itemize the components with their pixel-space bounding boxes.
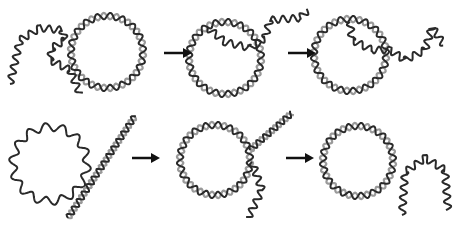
ssdna-strand (347, 22, 443, 61)
top-row (8, 9, 443, 97)
process-arrow-icon (286, 153, 314, 163)
bottom-row (9, 111, 451, 218)
stage-invasion-progress (311, 16, 443, 94)
ssdna-strand (207, 9, 308, 50)
ssdna-strand (246, 162, 264, 217)
ssdna-strand (399, 155, 451, 215)
ssdna-circle (9, 123, 91, 205)
dsdna-linear-strand-a (67, 116, 136, 218)
stage-circular-dsDNA-product (320, 123, 451, 215)
process-arrow-icon (132, 153, 160, 163)
stage-ssDNA-circle-and-linear-dsDNA (9, 115, 136, 218)
stage-ssDNA-and-dsDNA-circle (8, 13, 146, 93)
diagram: DNA strand invasion into circular DNA (0, 0, 458, 232)
stage-annealing (177, 111, 294, 217)
dna-diagram-canvas (0, 0, 458, 232)
